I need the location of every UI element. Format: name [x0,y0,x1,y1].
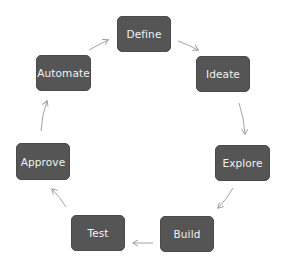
arrow-define-to-ideate [178,41,198,50]
node-explore: Explore [215,145,270,181]
node-ideate-label: Ideate [206,68,240,80]
node-approve-label: Approve [21,156,65,168]
arrow-automate-to-define [89,40,108,50]
node-test: Test [71,215,125,251]
node-ideate: Ideate [196,56,250,92]
arrow-ideate-to-explore [239,103,245,134]
node-test-label: Test [87,227,108,239]
node-build-label: Build [174,228,201,240]
arrow-test-to-approve [52,189,66,207]
node-explore-label: Explore [222,157,262,169]
node-define-label: Define [127,28,162,40]
node-build: Build [160,216,214,252]
node-approve: Approve [16,143,70,180]
node-automate-label: Automate [37,67,89,79]
node-automate: Automate [36,55,91,91]
arrow-explore-to-build [218,188,233,208]
arrow-approve-to-automate [41,101,47,131]
node-define: Define [117,16,171,52]
